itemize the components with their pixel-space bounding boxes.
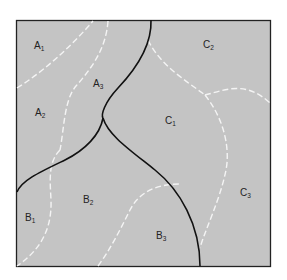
diagram-frame (17, 21, 271, 267)
region-diagram: A1 A2 A3 B1 B2 B3 C1 C2 C3 (0, 0, 287, 280)
